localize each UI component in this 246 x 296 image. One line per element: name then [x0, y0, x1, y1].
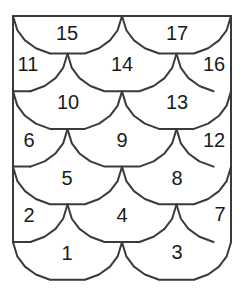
region-label-5: 5 — [61, 167, 72, 189]
region-label-8: 8 — [171, 167, 182, 189]
scale-tiling-diagram: 1234567891011121314151617 — [0, 0, 246, 296]
region-label-10: 10 — [57, 91, 79, 113]
scale-arc-odd-2-right — [177, 205, 214, 243]
region-label-3: 3 — [171, 241, 182, 263]
region-label-16: 16 — [203, 53, 225, 75]
diagram-labels: 1234567891011121314151617 — [18, 22, 226, 264]
region-label-9: 9 — [116, 129, 127, 151]
region-label-13: 13 — [166, 91, 188, 113]
region-label-11: 11 — [18, 53, 39, 75]
region-label-1: 1 — [61, 242, 72, 264]
scale-arc-odd-1-left — [30, 129, 67, 167]
region-label-2: 2 — [23, 204, 34, 226]
region-label-12: 12 — [203, 129, 225, 151]
region-label-15: 15 — [56, 22, 78, 44]
region-label-4: 4 — [116, 204, 127, 226]
scale-arc-odd-2-left — [30, 205, 67, 243]
region-label-6: 6 — [23, 129, 34, 151]
region-label-7: 7 — [214, 203, 225, 225]
diagram-svg: 1234567891011121314151617 — [0, 0, 246, 296]
region-label-14: 14 — [111, 53, 133, 75]
region-label-17: 17 — [166, 22, 188, 44]
